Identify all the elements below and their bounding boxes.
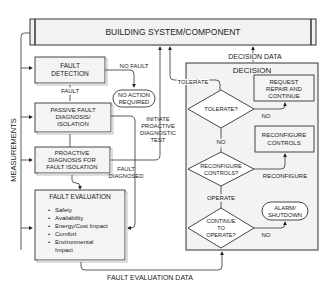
request-line1: REQUEST [269,79,298,85]
building-system-box: BUILDING SYSTEM/COMPONENT [30,19,316,45]
svg-text:•: • [48,207,50,213]
initiate-line2: PROACTIVE [141,123,175,129]
alarm-line2: SHUTDOWN [268,212,302,218]
measurements-lines [21,33,32,250]
reconfigure-controls-line2: CONTROLS [267,140,300,146]
passive-line1: PASSIVE FAULT [50,107,95,113]
alarm-line1: ALARM/ [274,205,296,211]
passive-line3: ISOLATION [57,121,89,127]
fault-evaluation-data-label: FAULT EVALUATION DATA [107,274,193,281]
operate-label: OPERATE [207,195,235,201]
proactive-line2: DIAGNOSIS FOR [48,157,96,163]
fault-detection-line1: FAULT [60,62,80,69]
continue-question-line3: OPERATE? [206,232,235,238]
building-system-label: BUILDING SYSTEM/COMPONENT [105,27,240,37]
no-fault-label: NO FAULT [120,63,149,69]
no-label-1: NO [262,113,271,119]
reconfigure-question-line1: RECONFIGURE [200,163,242,169]
request-line2: REPAIR AND [266,86,303,92]
proactive-line1: PROACTIVE [55,150,90,156]
fault-diagnosed-line2: DIAGNOSED [109,173,144,179]
decision-title: DECISION [233,66,272,75]
fault-diagnosed-line1: FAULT [117,166,135,172]
flowchart: BUILDING SYSTEM/COMPONENT MEASUREMENTS F… [0,0,333,286]
passive-line2: DIAGNOSIS/ [55,114,90,120]
fault-evaluation-title: FAULT EVALUATION [49,193,111,200]
tolerate-label: TOLERATE [177,79,208,85]
decision-data-label: DECISION DATA [228,53,282,60]
eval-item: Environmental [55,239,93,245]
request-line3: CONTINUE [268,93,299,99]
continue-question-line2: TO [217,225,225,231]
eval-item: Energy/Cost Impact [55,223,108,229]
no-label-3: NO [262,232,271,238]
eval-item: Impact [55,247,73,253]
initiate-line1: INITIATE [146,116,170,122]
eval-item: Comfort [55,231,77,237]
reconfigure-controls-line1: RECONFIGURE [262,132,306,138]
proactive-line3: FAULT ISOLATION [46,164,97,170]
svg-text:•: • [48,223,50,229]
fault-detection-line2: DETECTION [51,70,89,77]
svg-text:•: • [48,215,50,221]
no-action-line1: NO ACTION [118,92,150,98]
tolerate-question: TOLERATE? [204,106,238,112]
reconfigure-controls-box [255,126,314,152]
no-label-2: NO [217,139,226,145]
svg-text:•: • [48,239,50,245]
reconfigure-label: RECONFIGURE [263,173,307,179]
svg-text:•: • [48,231,50,237]
initiate-line3: DIAGNOSTIC [140,130,176,136]
fault-label: FAULT [61,88,80,94]
eval-item: Availability [55,215,83,221]
initiate-line4: TEST [151,137,166,143]
reconfigure-question-line2: CONTROLS? [204,170,238,176]
measurements-label: MEASUREMENTS [9,118,18,181]
no-action-line2: REQUIRED [119,99,150,105]
eval-item: Safety [55,207,72,213]
continue-question-line1: CONTINUE [206,218,235,224]
